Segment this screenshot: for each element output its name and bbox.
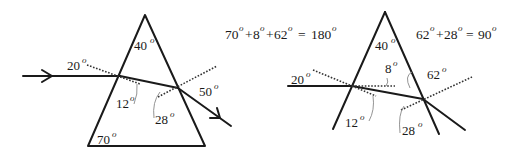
right-incidence-label: 20 <box>291 72 304 87</box>
right-8-arc <box>386 78 388 86</box>
degree-sup: o <box>112 129 117 139</box>
right-refraction-label: 12 <box>345 115 358 130</box>
eq2-equals: = <box>466 27 474 42</box>
degree-sup: o <box>82 55 87 65</box>
degree-sup: o <box>442 64 447 74</box>
right-deviation-label: 8 <box>385 61 392 76</box>
eq2-result: 90 <box>478 27 492 42</box>
degree-sup: o <box>458 23 463 33</box>
eq1-op-2: + <box>266 27 274 42</box>
eq1-equals: = <box>298 27 306 42</box>
degree-sup: o <box>150 35 155 45</box>
left-internal-ray <box>120 76 178 88</box>
degree-sup: o <box>418 119 423 129</box>
right-apex-angle-label: 40 <box>375 38 388 53</box>
right-internal-ray <box>352 86 423 99</box>
left-emergence-label: 50 <box>199 84 212 99</box>
eq1-term-2: 8 <box>253 27 260 42</box>
eq1-op-1: + <box>245 27 253 42</box>
right-entry-normal <box>313 70 352 86</box>
eq1-term-3: 62 <box>274 27 288 42</box>
eq2-op-1: + <box>436 27 444 42</box>
prism-refraction-diagram: 40 o 20 o 12 o 28 o 50 o 70 o 70 o + 8 o… <box>0 0 521 154</box>
right-62-arc <box>407 72 412 88</box>
degree-sup: o <box>306 69 311 79</box>
eq2-term-1: 62 <box>416 27 430 42</box>
right-internal-label: 28 <box>402 123 415 138</box>
right-prism-left-face <box>333 12 385 129</box>
left-apex-angle-label: 40 <box>134 38 147 53</box>
left-internal-label: 28 <box>155 112 168 127</box>
left-entry-normal <box>87 65 140 84</box>
degree-sup: o <box>260 23 265 33</box>
degree-sup: o <box>130 93 135 103</box>
left-prism-group: 40 o 20 o 12 o 28 o 50 o 70 o <box>23 15 231 147</box>
degree-sup: o <box>430 23 435 33</box>
degree-sup: o <box>288 23 293 33</box>
eq1-term-1: 70 <box>225 27 239 42</box>
equation-sum-180: 70 o + 8 o + 62 o = 180 o <box>225 23 337 42</box>
degree-sup: o <box>492 23 497 33</box>
eq1-result: 180 <box>311 27 332 42</box>
eq2-term-2: 28 <box>444 27 458 42</box>
left-base-angle-label: 70 <box>97 132 110 147</box>
degree-sup: o <box>332 23 337 33</box>
left-incidence-label: 20 <box>67 58 80 73</box>
degree-sup: o <box>360 112 365 122</box>
degree-sup: o <box>239 23 244 33</box>
degree-sup: o <box>393 58 398 68</box>
degree-sup: o <box>170 109 175 119</box>
degree-sup: o <box>214 81 219 91</box>
left-refraction-label: 12 <box>116 96 129 111</box>
right-62-label: 62 <box>427 67 440 82</box>
equation-sum-90: 62 o + 28 o = 90 o <box>416 23 497 42</box>
degree-sup: o <box>391 35 396 45</box>
right-12-arc <box>369 96 374 121</box>
